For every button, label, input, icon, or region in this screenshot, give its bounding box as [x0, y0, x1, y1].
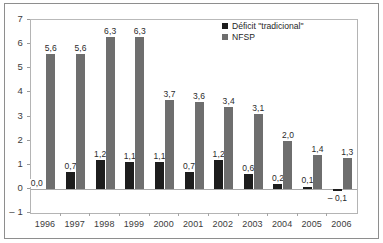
x-axis-tick-label: 2005	[302, 220, 322, 229]
bar-nfsp	[195, 102, 204, 189]
bar-value-label-nfsp: 3,1	[252, 104, 265, 113]
x-axis-tick-label: 2001	[183, 220, 203, 229]
bar-deficit-tradicional	[185, 172, 194, 189]
plot-inner: 0,05,60,75,61,26,31,16,31,13,70,73,61,23…	[31, 20, 357, 213]
x-axis-tick-mark	[208, 213, 209, 216]
chart-figure: – 101234567 0,05,60,75,61,26,31,16,31,13…	[0, 0, 383, 243]
x-axis-tick-mark	[238, 213, 239, 216]
y-axis-tick-label: 2	[18, 135, 23, 145]
x-axis-tick-label: 2004	[272, 220, 292, 229]
bar-nfsp	[76, 54, 85, 189]
bar-value-label-deficit: – 0,1	[327, 194, 347, 203]
x-axis-tick-label: 1996	[35, 220, 55, 229]
bar-deficit-tradicional	[214, 160, 223, 189]
legend-swatch-icon	[222, 23, 228, 29]
plot-area: 0,05,60,75,61,26,31,16,31,13,70,73,61,23…	[30, 19, 358, 214]
bar-nfsp	[254, 114, 263, 189]
x-axis-tick-mark	[267, 213, 268, 216]
x-axis-tick-mark	[297, 213, 298, 216]
bar-nfsp	[283, 141, 292, 189]
y-axis-tick-label: 3	[18, 111, 23, 121]
y-axis: – 101234567	[0, 0, 30, 243]
bar-deficit-tradicional	[244, 174, 253, 189]
bar-nfsp	[46, 54, 55, 189]
x-axis-tick-label: 2002	[213, 220, 233, 229]
x-axis-tick-mark	[60, 213, 61, 216]
y-axis-tick-label: – 1	[9, 207, 23, 217]
legend-label: Déficit "tradicional"	[232, 21, 304, 32]
y-axis-tick-label: 4	[18, 86, 23, 96]
chart-legend: Déficit "tradicional"NFSP	[222, 21, 304, 42]
x-axis-tick-mark	[89, 213, 90, 216]
bar-nfsp	[313, 155, 322, 189]
y-axis-tick-label: 6	[18, 38, 23, 48]
y-axis-tick-label: 5	[18, 62, 23, 72]
bar-nfsp	[106, 37, 115, 189]
x-axis-tick-label: 2000	[153, 220, 173, 229]
legend-item: NFSP	[222, 32, 304, 43]
legend-item: Déficit "tradicional"	[222, 21, 304, 32]
zero-line	[31, 189, 357, 190]
bar-value-label-deficit: 0,0	[30, 179, 43, 188]
bar-nfsp	[224, 107, 233, 189]
bar-value-label-nfsp: 2,0	[281, 131, 294, 140]
bar-value-label-nfsp: 1,4	[311, 145, 324, 154]
x-axis-tick-label: 1997	[65, 220, 85, 229]
bar-deficit-tradicional	[333, 189, 342, 191]
bar-nfsp	[343, 158, 352, 189]
bar-value-label-nfsp: 6,3	[104, 27, 117, 36]
bar-deficit-tradicional	[96, 160, 105, 189]
x-axis-tick-label: 2006	[331, 220, 351, 229]
bar-value-label-nfsp: 3,4	[222, 97, 235, 106]
x-axis-tick-label: 2003	[242, 220, 262, 229]
bar-value-label-nfsp: 3,6	[193, 92, 206, 101]
bar-nfsp	[135, 37, 144, 189]
bar-value-label-nfsp: 3,7	[163, 90, 176, 99]
y-axis-tick-label: 1	[18, 159, 23, 169]
bar-deficit-tradicional	[155, 162, 164, 189]
bar-deficit-tradicional	[66, 172, 75, 189]
legend-swatch-icon	[222, 34, 228, 40]
x-axis-tick-label: 1998	[94, 220, 114, 229]
bar-deficit-tradicional	[273, 184, 282, 189]
bar-value-label-nfsp: 6,3	[133, 27, 146, 36]
bar-value-label-nfsp: 5,6	[74, 44, 87, 53]
x-axis-tick-mark	[149, 213, 150, 216]
x-axis-tick-mark	[119, 213, 120, 216]
legend-label: NFSP	[232, 32, 255, 43]
x-axis-tick-mark	[178, 213, 179, 216]
y-axis-tick-label: 7	[18, 14, 23, 24]
x-axis-tick-mark	[326, 213, 327, 216]
y-axis-tick-label: 0	[18, 183, 23, 193]
x-axis-tick-label: 1999	[124, 220, 144, 229]
bar-deficit-tradicional	[125, 162, 134, 189]
bar-value-label-nfsp: 1,3	[341, 148, 354, 157]
bar-deficit-tradicional	[303, 187, 312, 189]
bar-value-label-nfsp: 5,6	[44, 44, 57, 53]
bar-nfsp	[165, 100, 174, 189]
